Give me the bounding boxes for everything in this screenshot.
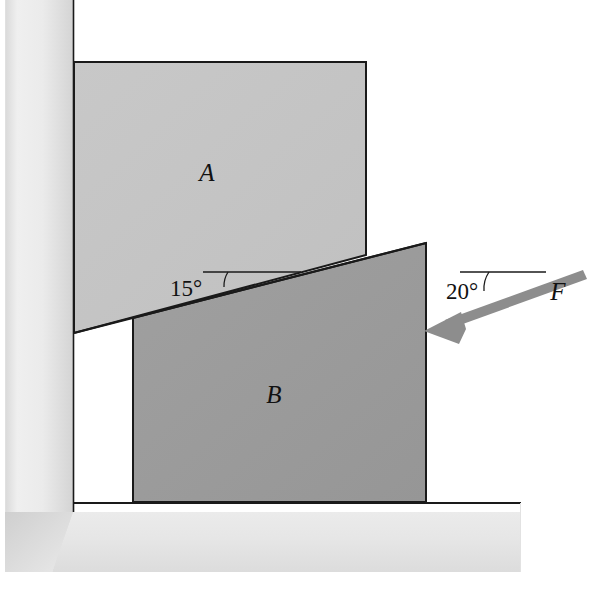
physics-diagram: B A 15° 20° F	[0, 0, 590, 603]
wall-surface	[5, 0, 74, 572]
block-b-label: B	[266, 381, 281, 408]
ground-surface	[5, 503, 521, 572]
incline-angle-label: 15°	[170, 276, 202, 301]
force-arrow-head[interactable]	[424, 312, 466, 344]
wall-face	[5, 0, 73, 512]
figure-root: B A 15° 20° F	[0, 0, 590, 603]
ground-face	[52, 512, 521, 572]
force-label: F	[549, 278, 566, 305]
force-angle-label: 20°	[446, 279, 478, 304]
block-a-label: A	[197, 159, 215, 186]
force-angle-arc	[484, 272, 489, 291]
